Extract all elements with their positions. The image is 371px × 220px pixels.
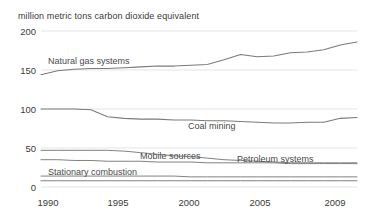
chart-root: million metric tons carbon dioxide equiv… (0, 0, 371, 220)
series-label-mobile-sources: Mobile sources (140, 151, 201, 161)
x-axis-tick-1995: 1995 (98, 197, 138, 208)
chart-axis-title: million metric tons carbon dioxide equiv… (18, 11, 199, 21)
x-axis-tick-2005: 2005 (240, 197, 280, 208)
y-axis-tick-100: 100 (10, 104, 36, 115)
series-label-natural-gas-systems: Natural gas systems (48, 56, 130, 66)
x-axis-tick-1990: 1990 (28, 197, 68, 208)
series-label-petroleum-systems: Petroleum systems (237, 154, 314, 164)
y-axis-tick-0: 0 (10, 182, 36, 193)
x-axis-tick-2000: 2000 (169, 197, 209, 208)
y-axis-tick-50: 50 (10, 143, 36, 154)
x-axis-tick-2009: 2009 (315, 197, 355, 208)
series-label-stationary-combustion: Stationary combustion (48, 167, 137, 177)
y-axis-tick-150: 150 (10, 65, 36, 76)
series-label-coal-mining: Coal mining (188, 121, 236, 131)
y-axis-tick-200: 200 (10, 26, 36, 37)
